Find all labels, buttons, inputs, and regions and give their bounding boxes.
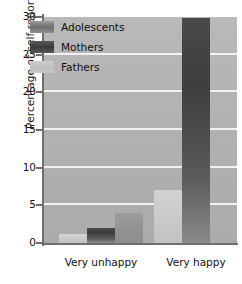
y-axis-tick bbox=[36, 54, 43, 56]
bar-mothers-very-happy bbox=[182, 18, 210, 243]
x-axis-label-very-happy: Very happy bbox=[136, 256, 242, 268]
legend-label-fathers: Fathers bbox=[61, 61, 100, 73]
bar-fathers-very-unhappy bbox=[115, 213, 143, 243]
y-axis-tick-label: 15 bbox=[8, 123, 36, 135]
legend-swatch-fathers bbox=[30, 61, 54, 73]
y-axis-tick-label: 20 bbox=[8, 85, 36, 97]
bar-adolescents-very-unhappy bbox=[59, 234, 87, 243]
y-axis-tick bbox=[36, 167, 43, 169]
y-axis-tick bbox=[36, 129, 43, 131]
y-axis-tick bbox=[36, 16, 43, 18]
bar-chart: Percentage of self-reports 051015202530 … bbox=[0, 0, 242, 284]
legend: Adolescents Mothers Fathers bbox=[30, 21, 124, 73]
legend-item-fathers: Fathers bbox=[30, 61, 124, 73]
legend-swatch-mothers bbox=[30, 41, 54, 53]
y-axis-tick bbox=[36, 204, 43, 206]
legend-label-adolescents: Adolescents bbox=[61, 21, 124, 33]
y-axis-tick-label: 0 bbox=[8, 236, 36, 248]
legend-item-adolescents: Adolescents bbox=[30, 21, 124, 33]
y-axis-tick bbox=[36, 91, 43, 93]
y-axis-tick bbox=[36, 242, 43, 244]
x-axis-line bbox=[42, 243, 238, 245]
legend-item-mothers: Mothers bbox=[30, 41, 124, 53]
bar-mothers-very-unhappy bbox=[87, 228, 115, 243]
bar-adolescents-very-happy bbox=[154, 190, 182, 243]
legend-swatch-adolescents bbox=[30, 21, 54, 33]
y-axis-tick-label: 5 bbox=[8, 198, 36, 210]
y-axis-tick-label: 10 bbox=[8, 161, 36, 173]
legend-label-mothers: Mothers bbox=[61, 41, 104, 53]
